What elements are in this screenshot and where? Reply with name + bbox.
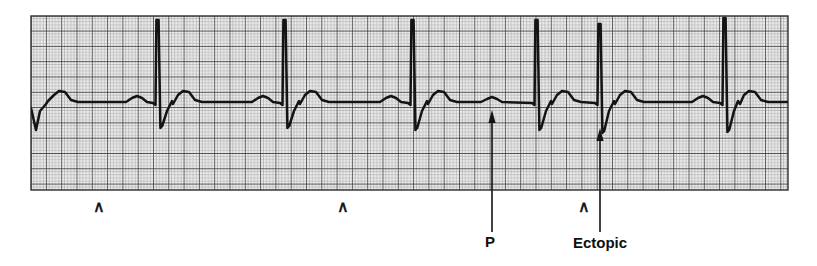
ectopic-callout-label: Ectopic bbox=[573, 234, 627, 251]
ecg-figure: ∧∧∧ PEctopic bbox=[0, 0, 817, 266]
caret-marker-3: ∧ bbox=[578, 198, 590, 215]
caret-markers: ∧∧∧ bbox=[93, 198, 590, 215]
ecg-strip-canvas: ∧∧∧ PEctopic bbox=[0, 0, 817, 266]
caret-marker-1: ∧ bbox=[93, 198, 105, 215]
p-wave-callout-label: P bbox=[485, 233, 495, 250]
caret-marker-2: ∧ bbox=[337, 198, 349, 215]
